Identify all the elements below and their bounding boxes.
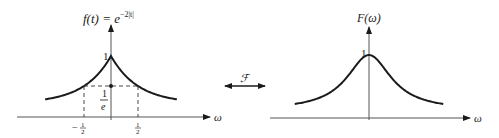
level-label-numerator: 1 bbox=[102, 88, 107, 99]
right-peak-label: 1 bbox=[361, 47, 367, 59]
fourier-symbol: ℱ bbox=[240, 72, 251, 84]
level-dot bbox=[109, 84, 113, 88]
left-plot: f(t) = e−2|t| 1 1 e − 1 2 1 2 ω bbox=[17, 10, 222, 136]
right-plot: F(ω) 1 ω bbox=[270, 11, 482, 124]
tick-label-neg-sign: − bbox=[72, 122, 78, 133]
left-plot-title: f(t) = e−2|t| bbox=[83, 10, 134, 26]
right-x-axis-label: ω bbox=[474, 112, 482, 124]
left-x-axis-label: ω bbox=[214, 111, 222, 123]
left-peak-label: 1 bbox=[103, 50, 109, 62]
tick-label-pos-half-den: 2 bbox=[136, 128, 140, 136]
right-plot-title: F(ω) bbox=[356, 11, 381, 25]
level-label-denominator: e bbox=[101, 101, 106, 112]
fourier-pair-diagram: f(t) = e−2|t| 1 1 e − 1 2 1 2 ω ℱ F(ω) 1… bbox=[0, 0, 499, 138]
fourier-transform-pair-arrow: ℱ bbox=[225, 72, 265, 86]
tick-label-neg-half-den: 2 bbox=[81, 128, 85, 136]
